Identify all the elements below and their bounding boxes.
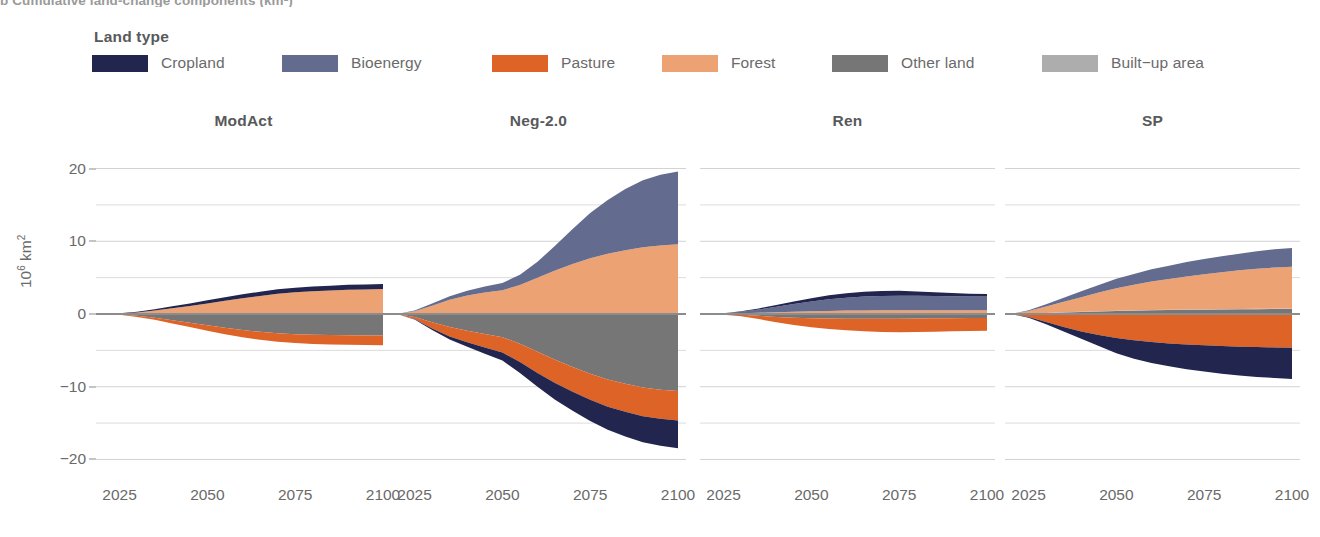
x-tick-label-2025: 2025	[102, 486, 136, 504]
legend-items: CroplandBioenergyPastureForestOther land…	[92, 52, 1292, 76]
x-tick-label-2075: 2075	[882, 486, 916, 504]
x-tick-label-2100: 2100	[1275, 486, 1309, 504]
x-tick-label-2025: 2025	[1011, 486, 1045, 504]
y-tick-mark	[89, 241, 96, 242]
x-tick-label-2100: 2100	[970, 486, 1004, 504]
y-tick-mark	[89, 314, 96, 315]
panel-title-modact: ModAct	[96, 112, 391, 130]
y-tick-label-neg10: −10	[60, 378, 86, 396]
legend-item-bioenergy[interactable]: Bioenergy	[282, 52, 422, 74]
x-tick-label-2050: 2050	[794, 486, 828, 504]
legend-item-pasture[interactable]: Pasture	[492, 52, 615, 74]
panel-title-sp: SP	[1005, 112, 1300, 130]
legend: Land type CroplandBioenergyPastureForest…	[92, 28, 1292, 76]
area-chart-svg	[391, 154, 686, 474]
legend-swatch-builtup-icon	[1042, 55, 1098, 72]
x-tick-label-2050: 2050	[190, 486, 224, 504]
legend-item-builtup[interactable]: Built−up area	[1042, 52, 1204, 74]
legend-swatch-other_land-icon	[832, 55, 888, 72]
legend-item-forest[interactable]: Forest	[662, 52, 776, 74]
x-tick-label-2025: 2025	[706, 486, 740, 504]
y-tick-label-20: 20	[69, 160, 86, 178]
area-chart-svg	[1005, 154, 1300, 474]
legend-label-cropland: Cropland	[161, 54, 225, 72]
x-tick-label-2100: 2100	[661, 486, 695, 504]
legend-label-bioenergy: Bioenergy	[351, 54, 422, 72]
y-tick-mark	[89, 459, 96, 460]
y-axis-label-unit: km	[17, 240, 34, 265]
area-chart-svg	[700, 154, 995, 474]
y-tick-mark	[89, 386, 96, 387]
plot-area	[391, 154, 686, 474]
legend-label-pasture: Pasture	[561, 54, 615, 72]
panel-grid: ModAct2025205020752100Neg-2.020252050207…	[0, 112, 1320, 532]
x-tick-label-2075: 2075	[278, 486, 312, 504]
legend-label-other_land: Other land	[901, 54, 974, 72]
panel-title-neg-2-0: Neg-2.0	[391, 112, 686, 130]
x-axis: 2025205020752100	[1005, 486, 1300, 514]
legend-item-other_land[interactable]: Other land	[832, 52, 974, 74]
legend-swatch-pasture-icon	[492, 55, 548, 72]
x-axis: 2025205020752100	[391, 486, 686, 514]
plot-area	[700, 154, 995, 474]
x-tick-label-2075: 2075	[1187, 486, 1221, 504]
y-tick-mark	[89, 168, 96, 169]
y-axis-label-base: 10	[17, 271, 34, 288]
y-tick-label-0: 0	[77, 305, 86, 323]
area-band-forest	[397, 244, 678, 314]
x-axis: 2025205020752100	[96, 486, 391, 514]
x-tick-label-2075: 2075	[573, 486, 607, 504]
x-tick-label-2050: 2050	[485, 486, 519, 504]
legend-label-forest: Forest	[731, 54, 776, 72]
y-axis-label: 106 km2	[16, 235, 35, 288]
clipped-caption-strip: b Cumulative land-change components (km²…	[0, 0, 700, 7]
legend-swatch-cropland-icon	[92, 55, 148, 72]
area-chart-svg	[96, 154, 391, 474]
y-axis-unit-exponent: 2	[16, 235, 27, 241]
panel-sp: SP2025205020752100	[1005, 112, 1300, 532]
y-tick-label-10: 10	[69, 232, 86, 250]
figure-container: b Cumulative land-change components (km²…	[0, 0, 1320, 537]
panel-modact: ModAct2025205020752100	[96, 112, 391, 532]
x-tick-label-2025: 2025	[397, 486, 431, 504]
y-tick-label-neg20: −20	[60, 450, 86, 468]
y-axis: 20100−10−20	[0, 154, 96, 474]
y-axis-label-exponent: 6	[16, 265, 27, 271]
legend-swatch-forest-icon	[662, 55, 718, 72]
x-axis: 2025205020752100	[700, 486, 995, 514]
x-tick-label-2050: 2050	[1099, 486, 1133, 504]
plot-area	[1005, 154, 1300, 474]
panel-title-ren: Ren	[700, 112, 995, 130]
area-band-forest	[102, 289, 383, 314]
legend-title: Land type	[94, 28, 1292, 46]
legend-swatch-bioenergy-icon	[282, 55, 338, 72]
clipped-caption-text: b Cumulative land-change components (km²…	[0, 0, 293, 7]
plot-area	[96, 154, 391, 474]
panel-neg-2-0: Neg-2.02025205020752100	[391, 112, 686, 532]
legend-item-cropland[interactable]: Cropland	[92, 52, 225, 74]
panel-ren: Ren2025205020752100	[700, 112, 995, 532]
legend-label-builtup: Built−up area	[1111, 54, 1204, 72]
